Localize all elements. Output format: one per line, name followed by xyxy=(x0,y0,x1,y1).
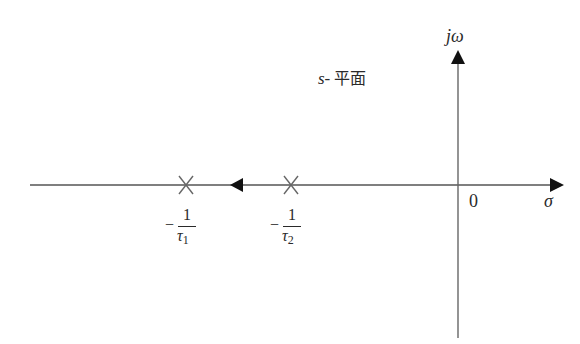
plane-label-text: 平面 xyxy=(334,69,366,88)
real-axis-arrow-icon xyxy=(550,178,564,192)
pole-1-denominator: τ1 xyxy=(177,227,189,248)
pole-2-numerator: 1 xyxy=(284,206,300,224)
origin-label: 0 xyxy=(469,191,478,212)
plane-label: s-平面 xyxy=(318,65,366,89)
pole-1-minus: − xyxy=(165,216,174,234)
pole-1-numerator: 1 xyxy=(179,206,195,224)
pole-2-label: − 1 τ2 xyxy=(270,206,310,252)
imaginary-axis-arrow-icon xyxy=(451,50,465,64)
pole-2-minus: − xyxy=(270,216,279,234)
diagram-graphics xyxy=(0,0,580,344)
pole-2-den-subscript: 2 xyxy=(288,233,294,247)
real-axis-label: σ xyxy=(544,191,553,212)
pole-1-den-subscript: 1 xyxy=(183,233,189,247)
s-plane-diagram: jω s-平面 0 σ − 1 τ1 − 1 τ2 xyxy=(0,0,580,344)
plane-label-var: s- xyxy=(318,69,330,88)
imaginary-axis-label: jω xyxy=(446,26,464,47)
locus-direction-arrow-icon xyxy=(230,178,243,192)
pole-2-denominator: τ2 xyxy=(282,227,294,248)
pole-1-label: − 1 τ1 xyxy=(165,206,205,252)
